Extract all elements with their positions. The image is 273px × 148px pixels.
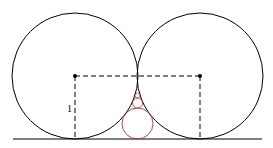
right-center-point xyxy=(198,74,202,78)
radius-label: 1 xyxy=(67,103,72,114)
inscribed-circle-small xyxy=(135,93,140,98)
left-center-point xyxy=(73,74,77,78)
tangent-circles-diagram: 1 xyxy=(0,0,273,148)
inscribed-circle-medium xyxy=(133,98,143,108)
inscribed-circle-large xyxy=(122,108,153,139)
